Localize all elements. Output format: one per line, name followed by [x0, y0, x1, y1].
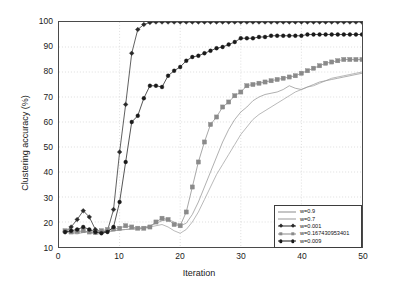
legend-item-2[interactable]: w=0.001	[277, 223, 359, 230]
legend-label: w=0.7	[300, 216, 315, 223]
y-tick-60: 60	[44, 118, 53, 127]
x-tick-50: 50	[358, 252, 367, 261]
x-axis-title: Iteration	[0, 268, 398, 278]
x-tick-20: 20	[175, 252, 184, 261]
legend: w=0.9w=0.7w=0.001w=0.167430953401w=0.009	[274, 205, 362, 248]
x-tick-40: 40	[297, 252, 306, 261]
y-tick-70: 70	[44, 92, 53, 101]
y-axis-title: Clustering accuracy (%)	[20, 95, 30, 191]
legend-swatch-icon	[277, 208, 297, 215]
x-axis-tick-labels: 01020304050	[0, 252, 398, 266]
y-tick-50: 50	[44, 143, 53, 152]
clustering-accuracy-chart: 102030405060708090100 01020304050 Iterat…	[0, 0, 398, 283]
legend-label: w=0.167430953401	[300, 230, 349, 237]
series-2	[63, 22, 362, 234]
legend-label: w=0.009	[300, 238, 321, 245]
legend-label: w=0.001	[300, 223, 321, 230]
legend-label: w=0.9	[300, 208, 315, 215]
y-tick-10: 10	[44, 244, 53, 253]
legend-swatch-icon	[277, 238, 297, 245]
x-tick-30: 30	[236, 252, 245, 261]
legend-swatch-icon	[277, 223, 297, 230]
x-tick-0: 0	[56, 252, 61, 261]
legend-item-4[interactable]: w=0.009	[277, 238, 359, 245]
legend-swatch-icon	[277, 216, 297, 223]
y-tick-100: 100	[39, 17, 53, 26]
y-tick-80: 80	[44, 67, 53, 76]
y-tick-40: 40	[44, 168, 53, 177]
y-axis-title-wrapper: Clustering accuracy (%)	[14, 28, 32, 258]
y-tick-30: 30	[44, 193, 53, 202]
x-tick-10: 10	[114, 252, 123, 261]
legend-item-0[interactable]: w=0.9	[277, 208, 359, 215]
legend-item-1[interactable]: w=0.7	[277, 215, 359, 222]
y-tick-20: 20	[44, 219, 53, 228]
legend-item-3[interactable]: w=0.167430953401	[277, 230, 359, 237]
legend-swatch-icon	[277, 230, 297, 237]
y-tick-90: 90	[44, 42, 53, 51]
